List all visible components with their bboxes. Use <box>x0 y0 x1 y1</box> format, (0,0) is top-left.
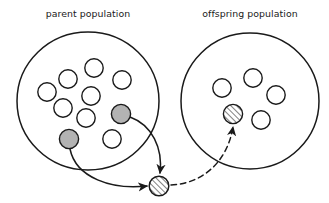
offspring-individual-2 <box>244 69 262 87</box>
parent-parent-selected-left <box>59 129 78 148</box>
offspring-offspring-inserted <box>223 104 242 123</box>
parent-individual-5 <box>82 87 100 105</box>
parent-individual-3 <box>85 59 103 77</box>
offspring-individual-4 <box>252 111 270 129</box>
child-individual-layer <box>149 176 169 196</box>
diagram-canvas: parent population offspring population <box>0 0 329 203</box>
parent-individual-7 <box>77 109 95 127</box>
offspring-population-boundary <box>181 33 319 169</box>
connection-arrows <box>70 117 233 187</box>
parent-individual-8 <box>103 130 121 148</box>
population-members <box>38 59 285 149</box>
parent-parent-selected-right <box>111 104 130 123</box>
parent-individual-2 <box>59 70 77 88</box>
evolutionary-algorithm-diagram: parent population offspring population <box>0 0 329 203</box>
parent-population-label: parent population <box>46 8 130 19</box>
offspring-population-label: offspring population <box>202 8 297 19</box>
child-individual <box>149 176 169 196</box>
parent-individual-6 <box>54 99 72 117</box>
parent-individual-4 <box>113 71 131 89</box>
recombination-arrow-from-right-parent <box>130 117 160 173</box>
offspring-individual-3 <box>267 86 285 104</box>
insertion-arrow-to-offspring <box>171 127 233 185</box>
parent-individual-1 <box>38 83 56 101</box>
offspring-individual-1 <box>213 79 231 97</box>
